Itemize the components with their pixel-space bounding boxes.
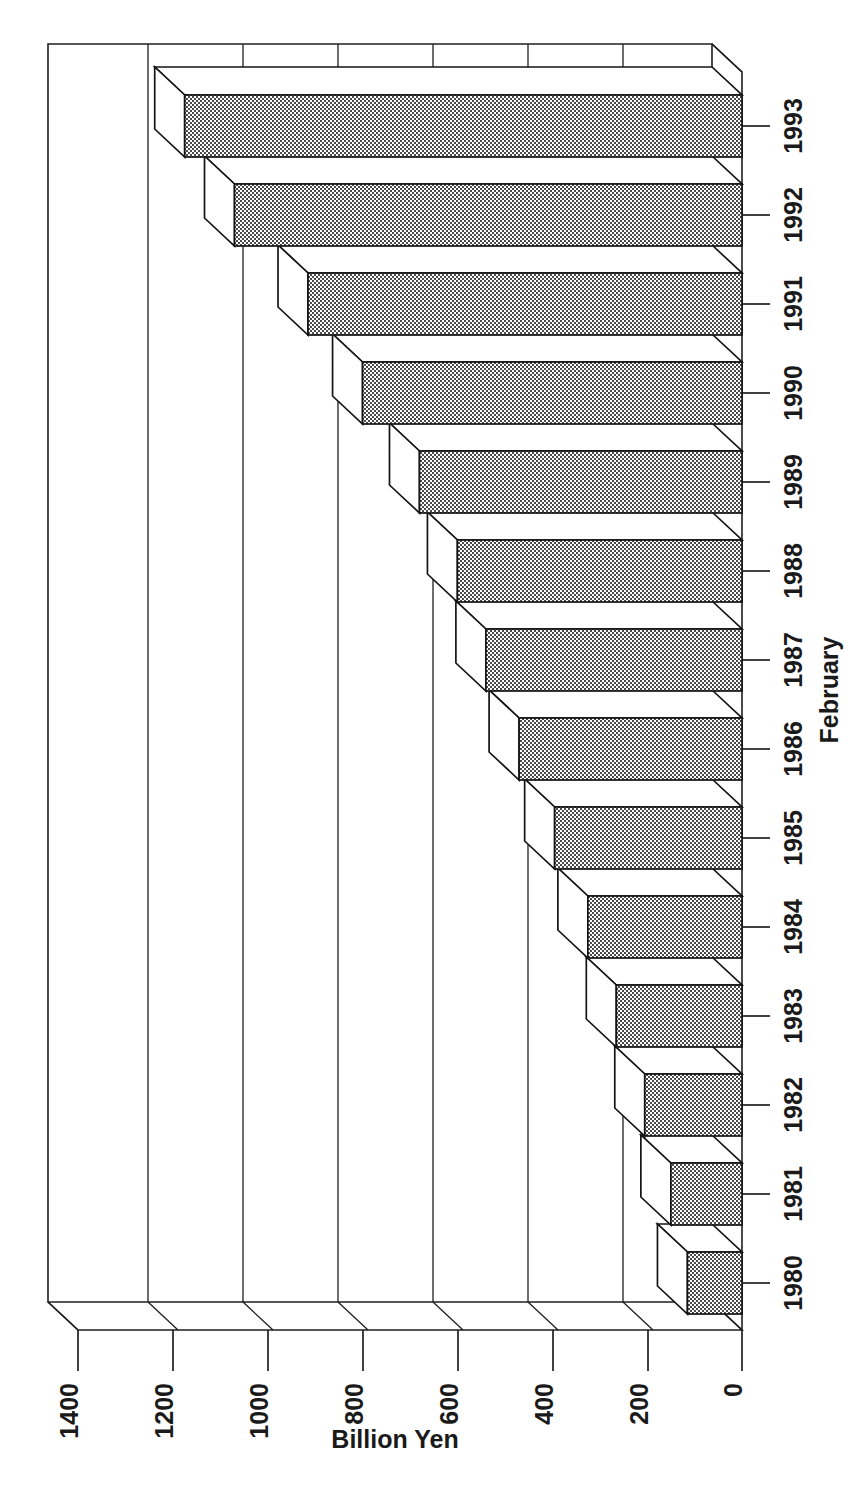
value-axis-title: Billion Yen xyxy=(331,1425,458,1453)
category-label-1982: 1982 xyxy=(779,1077,807,1133)
category-label-1981: 1981 xyxy=(779,1166,807,1222)
bar-1982 xyxy=(615,1046,742,1136)
bar-front-face xyxy=(363,362,742,424)
bar-1980 xyxy=(657,1224,742,1314)
bar-top-face xyxy=(558,868,742,896)
bar-1988 xyxy=(427,512,742,602)
bar-front-face xyxy=(235,184,742,246)
bar-1983 xyxy=(586,957,742,1047)
category-axis-ticks xyxy=(742,126,770,1283)
bar-front-face xyxy=(457,540,742,602)
bar-front-face xyxy=(687,1252,742,1314)
bar-1990 xyxy=(333,334,742,424)
bar-1985 xyxy=(525,779,742,869)
bar-front-face xyxy=(486,629,742,691)
bar-front-face xyxy=(185,95,742,157)
category-label-1987: 1987 xyxy=(779,632,807,688)
bar-1986 xyxy=(489,690,742,780)
value-tick-label: 400 xyxy=(530,1383,558,1425)
value-tick-label: 0 xyxy=(719,1383,747,1397)
category-label-1990: 1990 xyxy=(779,365,807,421)
value-tick-label: 600 xyxy=(435,1383,463,1425)
chart-figure: 1400 1200 1000 800 600 400 200 0 Billion… xyxy=(0,0,862,1493)
bar-top-face xyxy=(427,512,742,540)
bar-chart-svg: 1400 1200 1000 800 600 400 200 0 Billion… xyxy=(0,0,862,1493)
bar-1991 xyxy=(278,245,742,335)
bar-top-face xyxy=(525,779,742,807)
bar-top-face xyxy=(155,67,742,95)
category-label-1986: 1986 xyxy=(779,721,807,777)
category-label-1985: 1985 xyxy=(779,810,807,866)
category-label-1980: 1980 xyxy=(779,1255,807,1311)
bar-top-face xyxy=(205,156,742,184)
value-tick-label: 1200 xyxy=(150,1383,178,1439)
value-axis-ticks xyxy=(78,1330,742,1371)
bar-1993 xyxy=(155,67,742,157)
bar-top-face xyxy=(389,423,742,451)
bar-front-face xyxy=(519,718,742,780)
bar-1984 xyxy=(558,868,742,958)
category-label-1984: 1984 xyxy=(779,899,807,955)
value-tick-label: 1400 xyxy=(55,1383,83,1439)
bar-front-face xyxy=(671,1163,742,1225)
bar-front-face xyxy=(308,273,742,335)
category-axis-labels: 1980 1981 1982 1983 1984 1985 1986 1987 … xyxy=(779,98,807,1311)
category-label-1988: 1988 xyxy=(779,543,807,599)
category-label-1991: 1991 xyxy=(779,276,807,332)
category-label-1983: 1983 xyxy=(779,988,807,1044)
bar-top-face xyxy=(333,334,742,362)
category-label-1992: 1992 xyxy=(779,187,807,243)
bar-front-face xyxy=(555,807,742,869)
value-tick-label: 200 xyxy=(625,1383,653,1425)
category-label-1993: 1993 xyxy=(779,98,807,154)
bar-top-face xyxy=(489,690,742,718)
bar-front-face xyxy=(588,896,742,958)
bar-front-face xyxy=(419,451,742,513)
bar-front-face xyxy=(645,1074,742,1136)
bar-front-face xyxy=(616,985,742,1047)
bar-top-face xyxy=(456,601,742,629)
category-axis-title: February xyxy=(815,636,843,743)
bar-1987 xyxy=(456,601,742,691)
value-tick-label: 800 xyxy=(340,1383,368,1425)
value-tick-label: 1000 xyxy=(245,1383,273,1439)
bar-1992 xyxy=(205,156,742,246)
category-label-1989: 1989 xyxy=(779,454,807,510)
bar-1989 xyxy=(389,423,742,513)
bar-1981 xyxy=(641,1135,742,1225)
bar-top-face xyxy=(278,245,742,273)
